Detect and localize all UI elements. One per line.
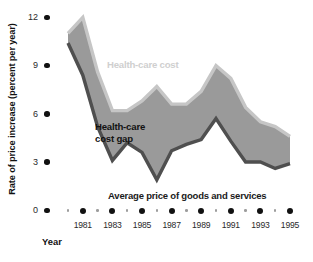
x-tick-dot-1985 — [139, 208, 145, 214]
y-tick-dot-6 — [44, 111, 50, 117]
annotation-health-care-cost: Health-care cost — [107, 59, 178, 70]
x-tick-dot-minor-1992 — [244, 209, 247, 212]
y-tick-label-9: 9 — [24, 60, 38, 70]
annotation-health-care-cost-gap: Health-care cost gap — [95, 121, 145, 144]
annotation-gap-line1: Health-care — [95, 121, 145, 133]
x-tick-label-1995: 1995 — [273, 220, 307, 230]
health-care-cost-gap-band — [68, 17, 290, 179]
y-tick-label-6: 6 — [24, 109, 38, 119]
x-tick-dot-minor-1982 — [96, 209, 99, 212]
x-tick-dot-1983 — [109, 208, 115, 214]
y-tick-dot-3 — [44, 159, 50, 165]
x-tick-dot-1981 — [80, 208, 86, 214]
y-tick-dot-12 — [44, 15, 50, 21]
x-axis-title: Year — [42, 236, 62, 247]
y-tick-dot-9 — [44, 63, 50, 69]
y-tick-dot-0 — [44, 208, 50, 214]
x-tick-dot-1989 — [198, 208, 204, 214]
y-tick-label-0: 0 — [24, 205, 38, 215]
x-tick-dot-1987 — [169, 208, 175, 214]
x-tick-dot-1991 — [228, 208, 234, 214]
x-tick-dot-1993 — [257, 208, 263, 214]
y-axis-title: Rate of price increase (percent per year… — [7, 9, 17, 209]
x-tick-dot-minor-1988 — [185, 209, 188, 212]
annotation-gap-line2: cost gap — [95, 133, 145, 145]
x-tick-dot-minor-1986 — [156, 209, 159, 212]
x-tick-dot-1995 — [287, 208, 293, 214]
annotation-average-price: Average price of goods and services — [108, 190, 266, 201]
chart-figure: Rate of price increase (percent per year… — [0, 0, 313, 262]
y-tick-label-12: 12 — [24, 12, 38, 22]
y-tick-label-3: 3 — [24, 157, 38, 167]
